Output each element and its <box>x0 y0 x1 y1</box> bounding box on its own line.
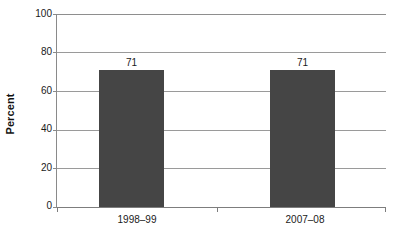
x-tick-start <box>57 207 58 212</box>
y-axis-line <box>56 14 57 208</box>
bar-2007-08 <box>270 70 335 207</box>
bar-1998-99 <box>99 70 164 207</box>
y-axis-title-label: Percent <box>4 14 16 214</box>
y-tick-mark-100 <box>53 14 57 15</box>
bar-chart: Percent 100 80 60 40 20 0 71 71 <box>0 0 394 232</box>
y-tick-mark-80 <box>53 52 57 53</box>
y-tick-label-80: 80 <box>26 47 52 57</box>
plot-area: 71 71 <box>57 14 386 207</box>
y-tick-label-60: 60 <box>26 86 52 96</box>
y-tick-mark-60 <box>53 91 57 92</box>
y-axis-tick-labels: 100 80 60 40 20 0 <box>24 0 52 232</box>
y-tick-label-40: 40 <box>26 124 52 134</box>
bar-value-2007-08: 71 <box>270 57 335 68</box>
x-category-label-2: 2007–08 <box>225 214 385 226</box>
bar-value-1998-99: 71 <box>99 57 164 68</box>
x-axis: 1998–99 2007–08 <box>57 207 386 232</box>
x-category-label-1: 1998–99 <box>57 214 217 226</box>
y-tick-label-20: 20 <box>26 163 52 173</box>
gridline-100 <box>57 14 386 15</box>
y-tick-mark-40 <box>53 130 57 131</box>
x-tick-end <box>385 207 386 212</box>
y-tick-mark-20 <box>53 168 57 169</box>
x-tick-middle <box>217 207 218 212</box>
gridline-80 <box>57 52 386 53</box>
y-tick-label-0: 0 <box>26 201 52 211</box>
y-tick-label-100: 100 <box>26 9 52 19</box>
